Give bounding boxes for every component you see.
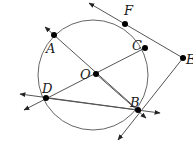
- label-c: C: [132, 38, 142, 53]
- tangent-eb: [118, 58, 183, 140]
- label-e: E: [185, 52, 193, 67]
- label-o: O: [80, 67, 91, 82]
- point-c: [142, 45, 148, 51]
- geometry-diagram: A F C E O D B: [0, 0, 193, 148]
- point-o: [93, 71, 99, 77]
- label-a: A: [45, 41, 55, 56]
- point-a: [51, 32, 57, 38]
- line-db-ext-b: [46, 98, 160, 113]
- label-b: B: [129, 95, 140, 110]
- diagram-canvas: A F C E O D B: [0, 0, 193, 148]
- label-d: D: [41, 81, 53, 96]
- point-f: [122, 21, 128, 27]
- line-ab-ext-a: [45, 27, 138, 110]
- label-f: F: [123, 3, 134, 18]
